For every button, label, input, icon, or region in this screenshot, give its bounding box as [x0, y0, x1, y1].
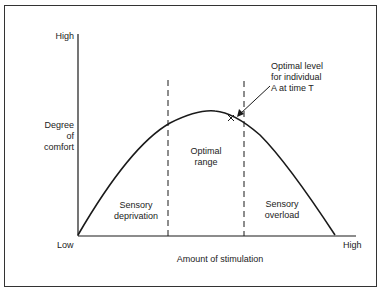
x-axis-low-label: Low	[57, 240, 74, 251]
arrow-head-icon	[237, 109, 244, 117]
annotation-arrow-line	[240, 86, 270, 114]
region-sensory-overload: Sensory overload	[257, 199, 307, 221]
annotation-line: A at time T	[271, 83, 323, 94]
y-axis-high-label: High	[40, 31, 74, 42]
annotation-line: for individual	[271, 72, 323, 83]
region-sensory-deprivation: Sensory deprivation	[106, 200, 166, 222]
region-optimal-range: Optimal range	[181, 146, 231, 168]
y-axis-title-line: comfort	[20, 142, 74, 153]
region-label-line: range	[181, 157, 231, 168]
x-axis-high-label: High	[343, 240, 362, 251]
region-label-line: Sensory	[106, 200, 166, 211]
y-axis-title-line: Degree	[20, 120, 74, 131]
region-label-line: deprivation	[106, 211, 166, 222]
y-axis-title: Degree of comfort	[20, 120, 74, 153]
region-label-line: Sensory	[257, 199, 307, 210]
region-label-line: overload	[257, 210, 307, 221]
y-axis-title-line: of	[20, 131, 74, 142]
x-axis-title: Amount of stimulation	[150, 254, 290, 265]
annotation-line: Optimal level	[271, 61, 323, 72]
optimal-level-annotation: Optimal level for individual A at time T	[271, 61, 323, 94]
region-label-line: Optimal	[181, 146, 231, 157]
